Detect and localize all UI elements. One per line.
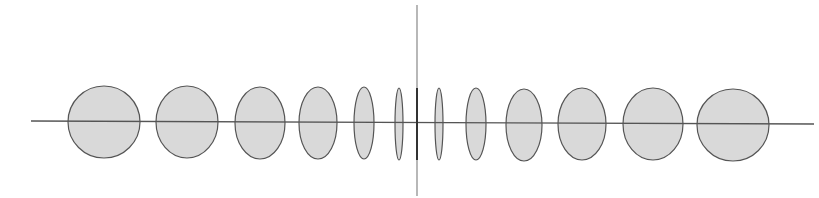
ellipse-8 xyxy=(466,88,486,160)
ellipse-sequence-diagram xyxy=(0,0,819,198)
ellipse-5 xyxy=(354,87,374,159)
ellipse-3 xyxy=(235,87,285,159)
ellipse-9 xyxy=(506,89,542,161)
ellipse-4 xyxy=(299,87,337,159)
ellipse-12 xyxy=(697,89,769,161)
ellipse-10 xyxy=(558,88,606,160)
diagram-canvas xyxy=(0,0,819,198)
ellipse-7 xyxy=(435,88,443,160)
ellipse-6 xyxy=(395,88,403,160)
